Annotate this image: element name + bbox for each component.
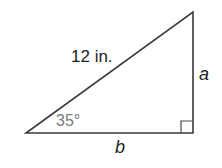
hypotenuse-label: 12 in. <box>71 48 113 65</box>
right-triangle-diagram: 12 in. a b 35° <box>0 0 222 168</box>
triangle-figure <box>0 0 222 168</box>
angle-label: 35° <box>56 113 80 129</box>
side-b-label: b <box>115 138 125 156</box>
right-angle-marker <box>181 121 193 133</box>
triangle-outline <box>26 12 193 133</box>
side-a-label: a <box>199 65 209 83</box>
